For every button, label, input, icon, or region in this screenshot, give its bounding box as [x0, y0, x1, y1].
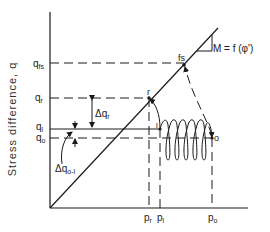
label-qo: qo: [36, 132, 46, 144]
slope-annotation: M = f (φ'): [213, 43, 253, 54]
point-label-l: l: [156, 121, 158, 130]
stress-path-diagram: qfs qr ql qo pr pl po fs r l o Δqr Δqo-l…: [0, 0, 270, 232]
label-pl: pl: [157, 212, 165, 224]
delta-qol-leader: [61, 132, 72, 164]
label-pr: pr: [144, 212, 153, 224]
delta-qol-label: Δqo-l: [55, 163, 75, 175]
path-l-to-r: [150, 99, 160, 128]
point-l: [158, 127, 161, 130]
label-po: po: [208, 212, 218, 224]
point-label-fs: fs: [178, 53, 186, 63]
point-fs: [182, 63, 186, 67]
y-axis-label: Stress difference, q: [6, 44, 20, 194]
point-label-o: o: [214, 133, 219, 143]
failure-line: [50, 28, 218, 208]
path-to-o: [206, 123, 212, 137]
cyclic-loading-loops: [160, 120, 206, 160]
label-qr: qr: [35, 92, 44, 104]
delta-qr-label: Δqr: [95, 108, 110, 120]
label-qfs: qfs: [33, 58, 45, 70]
path-o-to-fs: [185, 67, 212, 135]
point-label-r: r: [147, 87, 150, 97]
